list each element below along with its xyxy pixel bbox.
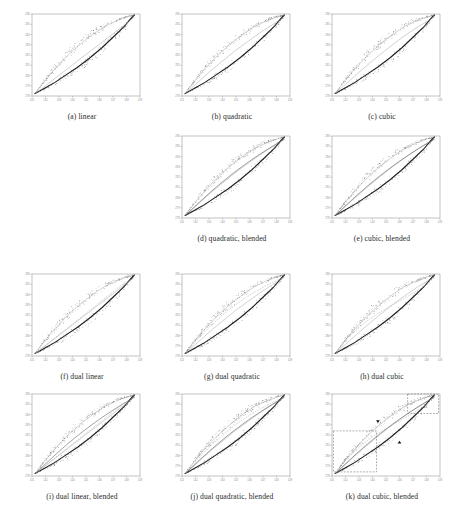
panel-caption-j: (j) dual quadratic, blended — [168, 492, 296, 501]
panel-caption-f: (f) dual linear — [18, 372, 146, 381]
panel-caption-c: (c) cubic — [318, 112, 446, 121]
svg-text:284: 284 — [25, 413, 30, 417]
svg-text:143: 143 — [357, 220, 362, 224]
svg-text:280: 280 — [25, 334, 30, 338]
svg-text:283: 283 — [325, 423, 330, 427]
svg-text:284: 284 — [175, 155, 180, 159]
svg-text:147: 147 — [261, 358, 266, 362]
svg-text:149: 149 — [138, 478, 143, 482]
loop-lower-branch — [335, 15, 435, 94]
svg-text:283: 283 — [325, 303, 330, 307]
svg-text:141: 141 — [30, 98, 35, 102]
svg-text:281: 281 — [325, 323, 330, 327]
svg-text:281: 281 — [25, 63, 30, 67]
panel-f: 2782792802812822832842852861411421431441… — [18, 270, 146, 386]
fitted-curve-2 — [336, 397, 435, 473]
svg-text:282: 282 — [325, 53, 330, 57]
svg-text:286: 286 — [25, 12, 30, 16]
svg-text:149: 149 — [438, 220, 443, 224]
svg-text:145: 145 — [384, 220, 389, 224]
panel-caption-e: (e) cubic, blended — [318, 234, 446, 243]
svg-text:280: 280 — [325, 454, 330, 458]
svg-text:285: 285 — [25, 402, 30, 406]
loop-upper-branch — [35, 15, 135, 94]
svg-text:141: 141 — [180, 220, 185, 224]
svg-text:280: 280 — [175, 196, 180, 200]
svg-text:143: 143 — [207, 478, 212, 482]
svg-text:282: 282 — [175, 433, 180, 437]
svg-text:282: 282 — [25, 313, 30, 317]
svg-text:280: 280 — [175, 454, 180, 458]
fitted-curve-3 — [336, 397, 435, 473]
svg-text:148: 148 — [274, 220, 279, 224]
svg-text:279: 279 — [325, 84, 330, 88]
fitted-curve-2 — [336, 139, 435, 215]
svg-text:145: 145 — [234, 220, 239, 224]
svg-text:280: 280 — [25, 74, 30, 78]
measured-samples-cloud — [185, 137, 285, 216]
svg-text:285: 285 — [175, 402, 180, 406]
scatter-plot-b: 2782792802812822832842852861411421431441… — [168, 10, 296, 106]
svg-text:144: 144 — [220, 358, 225, 362]
svg-text:283: 283 — [175, 423, 180, 427]
panel-caption-h: (h) dual cubic — [318, 372, 446, 381]
svg-text:145: 145 — [84, 98, 89, 102]
svg-text:149: 149 — [138, 358, 143, 362]
fitted-curve-1 — [336, 139, 435, 215]
svg-text:149: 149 — [438, 98, 443, 102]
svg-text:279: 279 — [25, 344, 30, 348]
loop-upper-branch — [185, 275, 285, 354]
svg-text:146: 146 — [97, 98, 102, 102]
fitted-curve-1 — [336, 397, 435, 473]
svg-text:285: 285 — [25, 282, 30, 286]
panel-k: 2782792802812822832842852861411421431441… — [318, 390, 446, 506]
svg-text:278: 278 — [175, 216, 180, 220]
svg-text:149: 149 — [288, 478, 293, 482]
svg-text:278: 278 — [25, 94, 30, 98]
svg-text:286: 286 — [325, 12, 330, 16]
svg-text:282: 282 — [175, 53, 180, 57]
measured-samples-cloud — [184, 15, 284, 94]
svg-text:286: 286 — [175, 12, 180, 16]
loop-upper-branch — [185, 395, 285, 474]
svg-text:282: 282 — [325, 433, 330, 437]
svg-text:143: 143 — [207, 220, 212, 224]
svg-text:144: 144 — [220, 98, 225, 102]
svg-text:280: 280 — [325, 334, 330, 338]
svg-text:282: 282 — [175, 313, 180, 317]
svg-text:278: 278 — [175, 94, 180, 98]
svg-text:141: 141 — [180, 98, 185, 102]
svg-text:146: 146 — [397, 98, 402, 102]
svg-text:283: 283 — [175, 43, 180, 47]
svg-text:143: 143 — [357, 478, 362, 482]
svg-text:144: 144 — [370, 358, 375, 362]
svg-text:148: 148 — [124, 358, 129, 362]
svg-text:279: 279 — [25, 84, 30, 88]
scatter-plot-h: 2782792802812822832842852861411421431441… — [318, 270, 446, 366]
svg-text:281: 281 — [25, 323, 30, 327]
svg-text:279: 279 — [25, 464, 30, 468]
panel-c: 2782792802812822832842852861411421431441… — [318, 10, 446, 126]
fitted-curve-2 — [336, 277, 435, 353]
panel-caption-d: (d) quadratic, blended — [168, 234, 296, 243]
svg-text:286: 286 — [175, 392, 180, 396]
fitted-curve-1 — [186, 277, 285, 353]
scatter-plot-d: 2782792802812822832842852861411421431441… — [168, 132, 296, 228]
svg-text:147: 147 — [411, 220, 416, 224]
fitted-curve-1 — [336, 277, 435, 353]
svg-text:143: 143 — [357, 98, 362, 102]
svg-text:147: 147 — [261, 220, 266, 224]
measured-samples-cloud — [185, 275, 285, 354]
svg-text:144: 144 — [220, 220, 225, 224]
panel-i: 2782792802812822832842852861411421431441… — [18, 390, 146, 506]
panel-caption-k: (k) dual cubic, blended — [318, 492, 446, 501]
svg-text:284: 284 — [175, 413, 180, 417]
svg-text:279: 279 — [175, 206, 180, 210]
svg-text:143: 143 — [207, 358, 212, 362]
svg-text:284: 284 — [325, 33, 330, 37]
svg-text:286: 286 — [325, 392, 330, 396]
svg-text:142: 142 — [43, 98, 48, 102]
svg-text:284: 284 — [175, 33, 180, 37]
svg-text:148: 148 — [424, 478, 429, 482]
svg-text:141: 141 — [180, 478, 185, 482]
